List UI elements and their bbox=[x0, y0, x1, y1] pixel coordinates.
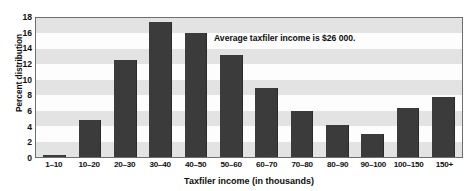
y-tick-label: 4 bbox=[14, 122, 32, 131]
bar-slot bbox=[143, 18, 178, 157]
x-tick-label: 70–80 bbox=[285, 160, 321, 169]
bar-20-30 bbox=[114, 60, 137, 157]
y-axis-tick-labels: 024681012141618 bbox=[14, 17, 32, 158]
x-tick-label: 90–100 bbox=[356, 160, 392, 169]
x-tick-label: 30–40 bbox=[143, 160, 179, 169]
y-tick-label: 18 bbox=[14, 13, 32, 22]
bar-70-80 bbox=[291, 111, 314, 157]
bar-1-10 bbox=[43, 155, 66, 157]
x-tick-label: 1–10 bbox=[36, 160, 72, 169]
x-tick-label: 40–50 bbox=[178, 160, 214, 169]
bar-slot bbox=[72, 18, 107, 157]
y-tick-label: 2 bbox=[14, 138, 32, 147]
y-tick-label: 0 bbox=[14, 154, 32, 163]
x-tick-label: 60–70 bbox=[249, 160, 285, 169]
y-tick-label: 6 bbox=[14, 107, 32, 116]
bar-60-70 bbox=[255, 88, 278, 157]
bar-slot bbox=[37, 18, 72, 157]
bar-chart-figure: Percent distribution 024681012141618 Ave… bbox=[0, 0, 472, 191]
bar-slot bbox=[108, 18, 143, 157]
y-tick-label: 8 bbox=[14, 91, 32, 100]
x-axis-title: Taxfiler income (in thousands) bbox=[35, 176, 463, 186]
x-tick-label: 150+ bbox=[427, 160, 463, 169]
bar-slot bbox=[426, 18, 461, 157]
bar-10-20 bbox=[79, 120, 102, 157]
bar-40-50 bbox=[185, 33, 208, 157]
bar-slot bbox=[390, 18, 425, 157]
x-tick-label: 80–90 bbox=[320, 160, 356, 169]
average-income-annotation: Average taxfiler income is $26 000. bbox=[214, 33, 355, 43]
bar-150- bbox=[432, 97, 455, 157]
bar-50-60 bbox=[220, 55, 243, 157]
x-tick-label: 100–150 bbox=[391, 160, 427, 169]
bar-90-100 bbox=[361, 134, 384, 157]
x-tick-label: 50–60 bbox=[214, 160, 250, 169]
x-tick-label: 10–20 bbox=[72, 160, 108, 169]
y-tick-label: 14 bbox=[14, 44, 32, 53]
bar-slot bbox=[355, 18, 390, 157]
y-tick-label: 10 bbox=[14, 75, 32, 84]
bar-30-40 bbox=[149, 22, 172, 157]
y-tick-label: 16 bbox=[14, 28, 32, 37]
y-tick-label: 12 bbox=[14, 60, 32, 69]
bar-100-150 bbox=[397, 108, 420, 157]
x-axis-tick-labels: 1–1010–2020–3030–4040–5050–6060–7070–808… bbox=[35, 160, 463, 169]
x-tick-label: 20–30 bbox=[107, 160, 143, 169]
bar-slot bbox=[178, 18, 213, 157]
bar-80-90 bbox=[326, 125, 349, 157]
